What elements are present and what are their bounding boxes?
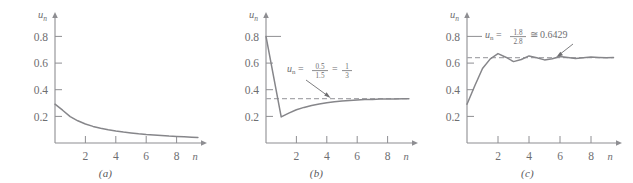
panel-b-annotation: un= 0.5 1.5 = 1 3 xyxy=(287,63,352,99)
panel-b-caption: (b) xyxy=(211,167,422,179)
panel-b-annotation-eq2: = xyxy=(332,63,338,74)
panel-c-annotation-value: 0.6429 xyxy=(540,29,568,40)
panel-c-x-ticks xyxy=(498,136,591,143)
y-axis-title: un xyxy=(249,9,258,23)
x-axis-title: n xyxy=(607,151,612,162)
panel-c-annotation: un= 1.8 2.8 ≅ 0.6429 xyxy=(485,29,573,58)
panel-b: 0.2 0.4 0.6 0.8 2 4 6 8 un n un= 0.5 xyxy=(211,0,422,183)
y-tick-label: 0.4 xyxy=(446,84,461,96)
figure-sequence-convergence-panels: 0.2 0.4 0.6 0.8 2 4 6 8 un n (a) xyxy=(0,0,633,183)
x-axis-title: n xyxy=(403,151,408,162)
x-tick-label: 6 xyxy=(557,150,563,162)
y-tick-label: 0.6 xyxy=(34,57,49,69)
panel-c-y-tick-labels: 0.2 0.4 0.6 0.8 xyxy=(446,31,461,123)
panel-a-x-ticks xyxy=(85,136,176,143)
panel-c-frac-denominator: 2.8 xyxy=(514,38,523,46)
panel-a-curve xyxy=(55,104,198,137)
x-tick-label: 2 xyxy=(495,150,501,162)
y-tick-label: 0.8 xyxy=(245,31,260,43)
panel-a-plot: 0.2 0.4 0.6 0.8 2 4 6 8 un n xyxy=(0,0,211,183)
panel-c: 0.2 0.4 0.6 0.8 2 4 6 8 un n un= 1.8 xyxy=(422,0,633,183)
x-tick-label: 6 xyxy=(143,150,149,162)
panel-b-axes xyxy=(263,12,418,146)
y-tick-label: 0.4 xyxy=(34,84,49,96)
panel-b-y-tick-labels: 0.2 0.4 0.6 0.8 xyxy=(245,31,260,123)
panel-b-frac2-denominator: 3 xyxy=(345,72,349,80)
panel-b-frac2-numerator: 1 xyxy=(345,63,349,71)
x-tick-label: 2 xyxy=(294,150,300,162)
y-tick-label: 0.8 xyxy=(34,31,49,43)
x-tick-label: 2 xyxy=(83,150,89,162)
panel-b-annotation-arrowhead xyxy=(324,92,330,98)
panel-a-x-tick-labels: 2 4 6 8 xyxy=(83,150,180,162)
y-tick-label: 0.6 xyxy=(446,57,461,69)
panel-c-x-tick-labels: 2 4 6 8 xyxy=(495,150,594,162)
y-tick-label: 0.8 xyxy=(446,31,461,43)
y-tick-label: 0.2 xyxy=(245,111,260,123)
y-tick-label: 0.2 xyxy=(446,111,461,123)
panel-b-frac1-numerator: 0.5 xyxy=(316,63,325,71)
panel-a-y-tick-labels: 0.2 0.4 0.6 0.8 xyxy=(34,31,49,123)
x-tick-label: 4 xyxy=(324,150,330,162)
y-tick-label: 0.4 xyxy=(245,84,260,96)
x-axis-title: n xyxy=(192,151,197,162)
y-tick-label: 0.6 xyxy=(245,57,260,69)
panel-b-plot: 0.2 0.4 0.6 0.8 2 4 6 8 un n un= 0.5 xyxy=(211,0,422,183)
y-tick-label: 0.2 xyxy=(34,111,49,123)
panel-b-curve xyxy=(266,36,409,117)
panel-a-axes xyxy=(52,12,207,146)
x-tick-label: 6 xyxy=(354,150,360,162)
panel-b-x-tick-labels: 2 4 6 8 xyxy=(294,150,391,162)
panel-a-caption: (a) xyxy=(0,167,211,179)
panel-c-caption: (c) xyxy=(422,167,633,179)
panel-c-plot: 0.2 0.4 0.6 0.8 2 4 6 8 un n un= 1.8 xyxy=(422,0,633,183)
panel-a: 0.2 0.4 0.6 0.8 2 4 6 8 un n (a) xyxy=(0,0,211,183)
panel-c-frac-numerator: 1.8 xyxy=(514,29,523,37)
panel-b-annotation-text: un= xyxy=(287,63,304,76)
y-axis-title: un xyxy=(38,9,47,23)
panel-c-curve xyxy=(467,54,614,105)
panel-c-annotation-text: un= xyxy=(485,29,502,42)
y-axis-title: un xyxy=(450,9,459,23)
panel-c-annotation-approx: ≅ xyxy=(530,29,538,40)
x-tick-label: 4 xyxy=(526,150,532,162)
x-tick-label: 4 xyxy=(113,150,119,162)
x-tick-label: 8 xyxy=(588,150,594,162)
x-tick-label: 8 xyxy=(385,150,391,162)
panel-b-frac1-denominator: 1.5 xyxy=(316,72,325,80)
panel-b-x-ticks xyxy=(296,136,387,143)
x-tick-label: 8 xyxy=(174,150,180,162)
panel-b-annotation-leader xyxy=(306,80,328,96)
